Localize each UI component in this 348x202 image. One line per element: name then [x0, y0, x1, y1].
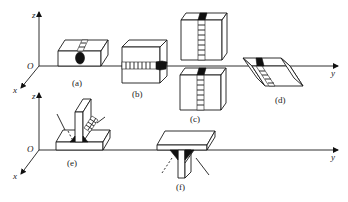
top-z-label: z — [31, 10, 36, 20]
panel-f-overhead-weld: (f) — [157, 131, 215, 192]
panel-c-vertical-weld-lower: (c) — [180, 68, 226, 124]
bottom-origin-label: O — [27, 144, 34, 154]
bottom-z-label: z — [31, 91, 36, 101]
panel-a-label: (a) — [72, 78, 82, 88]
panel-d-inclined-weld: (d) — [243, 58, 303, 105]
panel-d-label: (d) — [275, 95, 286, 105]
panel-b-label: (b) — [132, 89, 143, 99]
panel-c-label: (c) — [190, 114, 200, 124]
panel-f-label: (f) — [176, 182, 185, 192]
panel-b-horizontal-weld: (b) — [122, 40, 167, 99]
top-y-label: y — [330, 68, 335, 78]
top-origin-label: O — [27, 61, 34, 71]
panel-e-label: (e) — [67, 158, 77, 168]
panel-e-t-joint-weld: (e) — [56, 99, 110, 168]
panel-c-vertical-weld-upper — [181, 13, 227, 60]
bottom-x-label: x — [12, 171, 17, 181]
bottom-y-label: y — [330, 152, 335, 162]
top-x-label: x — [12, 85, 17, 95]
panel-a-flat-weld: (a) — [58, 40, 108, 88]
welding-positions-diagram: z y x O (a) (b) — [0, 0, 348, 202]
